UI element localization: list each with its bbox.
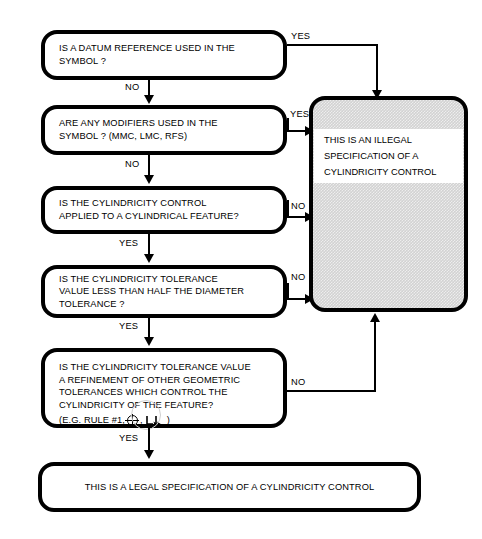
node-datum-reference-question[interactable]: IS A DATUM REFERENCE USED IN THE SYMBOL … [41, 30, 287, 80]
refinement-example-suffix: ) [167, 414, 170, 427]
edge-q2-no-arrowhead [144, 175, 154, 184]
edge-q2-no-vertical [148, 155, 150, 177]
node-refinement-question[interactable]: IS THE CYLINDRICITY TOLERANCE VALUE A RE… [41, 348, 287, 428]
node-illegal-specification-text: THIS IS AN ILLEGAL SPECIFICATION OF A CY… [314, 132, 436, 180]
edge-label-q4-yes: YES [119, 321, 138, 331]
illegal-text-band: THIS IS AN ILLEGAL SPECIFICATION OF A CY… [314, 129, 463, 183]
edge-q1-yes-vertical [376, 44, 378, 92]
edge-q3-yes-vertical [148, 234, 150, 256]
edge-q3-yes-arrowhead [144, 254, 154, 263]
edge-label-q1-no: NO [125, 82, 139, 92]
edge-q5-yes-arrowhead [144, 450, 154, 459]
edge-label-q5-yes: YES [119, 433, 138, 443]
edge-q5-no-arrowhead [370, 313, 380, 322]
node-cylindrical-feature-question[interactable]: IS THE CYLINDRICITY CONTROL APPLIED TO A… [41, 186, 287, 234]
node-cylindrical-feature-text: IS THE CYLINDRICITY CONTROL APPLIED TO A… [45, 197, 239, 222]
edge-label-q3-yes: YES [119, 238, 138, 248]
node-legal-specification-terminal[interactable]: THIS IS A LEGAL SPECIFICATION OF A CYLIN… [38, 462, 421, 512]
position-symbol [127, 415, 138, 426]
edge-label-q4-no: NO [291, 272, 305, 282]
edge-q1-yes-horizontal [287, 44, 378, 46]
node-half-diameter-tolerance-text: IS THE CYLINDRICITY TOLERANCE VALUE LESS… [45, 273, 244, 311]
node-legal-specification-text: THIS IS A LEGAL SPECIFICATION OF A CYLIN… [42, 481, 417, 494]
flowchart-canvas: IS A DATUM REFERENCE USED IN THE SYMBOL … [0, 0, 482, 539]
edge-label-q2-no: NO [125, 159, 139, 169]
edge-q5-no-horizontal [287, 390, 376, 392]
refinement-example-prefix: (E.G. RULE #1, [59, 414, 125, 427]
refinement-example-separator: , [140, 414, 143, 427]
edge-label-q1-yes: YES [291, 31, 310, 41]
node-datum-reference-text: IS A DATUM REFERENCE USED IN THE SYMBOL … [45, 42, 235, 67]
refinement-example-row: (E.G. RULE #1,, ) [59, 414, 170, 427]
node-refinement-text: IS THE CYLINDRICITY TOLERANCE VALUE A RE… [45, 352, 251, 427]
node-modifiers-question[interactable]: ARE ANY MODIFIERS USED IN THE SYMBOL ? (… [41, 105, 287, 155]
edge-label-q2-yes: YES [290, 109, 309, 119]
edge-label-q3-no: NO [291, 201, 305, 211]
node-modifiers-text: ARE ANY MODIFIERS USED IN THE SYMBOL ? (… [45, 117, 218, 142]
edge-q1-no-arrowhead [144, 95, 154, 104]
total-runout-symbol [145, 415, 165, 427]
edge-q4-yes-arrowhead [144, 337, 154, 346]
node-half-diameter-tolerance-question[interactable]: IS THE CYLINDRICITY TOLERANCE VALUE LESS… [41, 265, 287, 318]
edge-label-q5-no: NO [291, 377, 305, 387]
edge-q5-no-vertical [374, 322, 376, 390]
